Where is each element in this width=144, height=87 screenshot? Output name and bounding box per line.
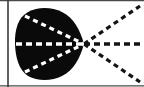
diagram-canvas [0, 0, 144, 87]
figure-container [0, 0, 144, 87]
